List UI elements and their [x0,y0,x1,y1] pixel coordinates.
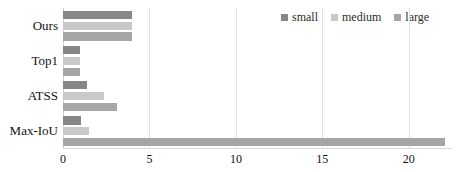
legend-item-small: small [281,11,318,23]
legend-swatch-small [281,14,288,21]
gridline-10 [236,8,237,149]
x-tick-label-0: 0 [60,152,66,167]
bar-atss-medium [63,92,104,100]
y-axis-label-atss: ATSS [28,88,58,104]
x-tick-label-5: 5 [146,152,152,167]
x-tick-label-15: 15 [316,152,328,167]
bar-top1-medium [63,57,80,65]
y-axis-label-wrap: ATSS [0,96,58,97]
gridline-20 [409,8,410,149]
legend-label-small: small [292,11,318,23]
y-axis-label-max-iou: Max-IoU [10,123,58,139]
y-axis-label-wrap: Max-IoU [0,131,58,132]
legend-item-large: large [394,11,429,23]
gridline-5 [149,8,150,149]
y-axis-label-wrap: Top1 [0,61,58,62]
bar-atss-small [63,81,87,89]
x-tick-label-20: 20 [403,152,415,167]
x-tick-label-10: 10 [230,152,242,167]
bar-top1-small [63,46,80,54]
bar-ours-small [63,11,132,19]
bar-chart: small medium large OursTop1ATSSMax-IoU 0… [0,0,461,172]
legend-label-medium: medium [342,11,381,23]
y-axis-label-top1: Top1 [31,53,58,69]
bar-top1-large [63,68,80,76]
y-axis-label-wrap: Ours [0,26,58,27]
legend-item-medium: medium [331,11,381,23]
legend-swatch-large [394,14,401,21]
chart-legend: small medium large [281,11,429,23]
bar-ours-large [63,32,132,40]
bar-max-iou-large [63,138,445,146]
x-axis-line [63,148,452,149]
bar-atss-large [63,103,117,111]
y-axis-label-ours: Ours [33,18,58,34]
gridline-15 [322,8,323,149]
legend-swatch-medium [331,14,338,21]
bar-max-iou-medium [63,127,89,135]
bar-max-iou-small [63,116,81,124]
bar-ours-medium [63,22,132,30]
